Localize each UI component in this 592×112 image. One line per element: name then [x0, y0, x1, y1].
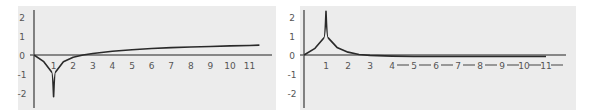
y-tick-label: 2 [19, 13, 25, 23]
x-tick-label: 7 [168, 61, 174, 71]
x-tick-label: 3 [367, 61, 373, 71]
x-tick-label: 7 [455, 61, 461, 71]
x-tick-label: 11 [540, 61, 551, 71]
x-tick-label: 10 [518, 61, 530, 71]
x-tick-label: 1 [51, 61, 57, 71]
x-tick-label: 5 [411, 61, 417, 71]
y-tick-label: 1 [289, 32, 295, 42]
y-tick-label: -2 [18, 89, 27, 99]
x-tick-label: 2 [345, 61, 351, 71]
y-tick-label: 2 [289, 13, 295, 23]
x-tick-label: 11 [244, 61, 255, 71]
charts-canvas: 210-1-21234567891011210-1-21234567891011 [0, 0, 592, 112]
x-tick-label: 1 [323, 61, 329, 71]
x-tick-label: 3 [90, 61, 96, 71]
x-tick-label: 6 [149, 61, 155, 71]
y-tick-label: -1 [288, 70, 297, 80]
y-tick-label: -1 [18, 70, 27, 80]
x-tick-label: 9 [499, 61, 505, 71]
y-tick-label: 1 [19, 32, 25, 42]
y-tick-label: 0 [289, 51, 295, 61]
x-tick-label: 8 [188, 61, 194, 71]
x-tick-label: 4 [389, 61, 395, 71]
x-tick-label: 9 [208, 61, 214, 71]
x-tick-label: 10 [224, 61, 236, 71]
curve-right [304, 11, 546, 56]
x-tick-label: 8 [477, 61, 483, 71]
x-tick-label: 5 [129, 61, 135, 71]
y-tick-label: 0 [19, 51, 25, 61]
x-tick-label: 4 [110, 61, 116, 71]
x-tick-label: 6 [433, 61, 439, 71]
y-tick-label: -2 [288, 89, 297, 99]
x-tick-label: 2 [70, 61, 76, 71]
